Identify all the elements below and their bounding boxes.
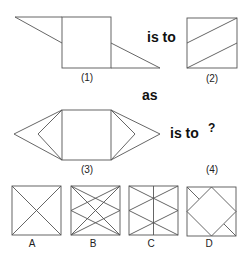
- is-to-text-1: is to: [147, 29, 176, 45]
- option-c-figure[interactable]: [129, 186, 178, 235]
- option-c-label[interactable]: C: [145, 238, 157, 249]
- is-to-text-2: is to: [170, 125, 199, 141]
- as-text: as: [142, 87, 158, 103]
- option-b-label[interactable]: B: [87, 238, 99, 249]
- figure-3-label: (3): [75, 164, 99, 175]
- option-a-label[interactable]: A: [26, 238, 38, 249]
- option-d-label[interactable]: D: [203, 238, 215, 249]
- unknown-mark: ?: [208, 121, 215, 135]
- figure-2: [187, 18, 237, 68]
- figure-2-label: (2): [200, 73, 224, 84]
- option-b-figure[interactable]: [71, 186, 120, 235]
- option-a-figure[interactable]: [12, 186, 61, 235]
- option-d-figure[interactable]: [187, 187, 236, 236]
- figure-4-label: (4): [200, 164, 224, 175]
- figure-1-label: (1): [75, 72, 99, 83]
- figure-1: [15, 17, 160, 68]
- figure-3: [14, 110, 160, 160]
